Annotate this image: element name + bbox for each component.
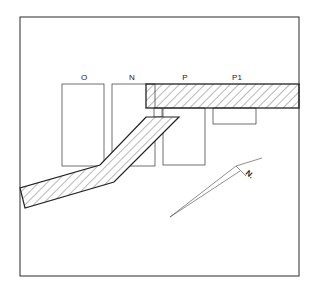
label-p1: P1 [232, 73, 242, 82]
label-o: O [81, 73, 87, 82]
label-n: N [129, 73, 135, 82]
label-p: P [182, 73, 187, 82]
building-o [62, 84, 104, 166]
building-p1 [213, 108, 256, 124]
north-label: N. [244, 168, 256, 180]
connector [154, 108, 162, 117]
hatched-horizontal-bar [146, 84, 299, 108]
north-arrow-icon [170, 158, 262, 217]
site-plan-diagram: O N P P1 N. [0, 0, 317, 288]
